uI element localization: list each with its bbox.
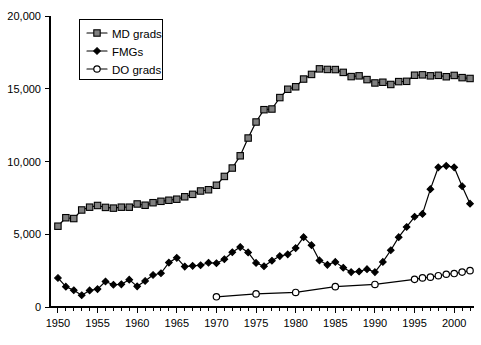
x-tick-label: 1970 xyxy=(204,317,228,329)
legend-item-label: MD grads xyxy=(112,28,162,40)
marker-square xyxy=(213,182,219,188)
marker-diamond xyxy=(459,183,466,190)
x-tick-label: 1960 xyxy=(125,317,149,329)
x-tick-label: 1985 xyxy=(323,317,347,329)
marker-square xyxy=(316,66,322,72)
marker-diamond xyxy=(364,266,371,273)
marker-square xyxy=(79,207,85,213)
marker-diamond xyxy=(348,269,355,276)
marker-diamond xyxy=(356,268,363,275)
marker-circle xyxy=(459,269,465,275)
marker-diamond xyxy=(467,200,474,207)
marker-diamond xyxy=(197,262,204,269)
marker-square xyxy=(245,135,251,141)
x-tick-label: 1995 xyxy=(402,317,426,329)
marker-square xyxy=(118,204,124,210)
marker-square xyxy=(253,119,259,125)
marker-square xyxy=(332,66,338,72)
marker-diamond xyxy=(118,281,125,288)
marker-square xyxy=(292,84,298,90)
x-tick-label: 1975 xyxy=(244,317,268,329)
marker-diamond xyxy=(189,263,196,270)
marker-square xyxy=(197,188,203,194)
marker-diamond xyxy=(78,292,85,299)
marker-square xyxy=(94,30,100,36)
marker-square xyxy=(285,86,291,92)
marker-diamond xyxy=(70,287,77,294)
marker-square xyxy=(142,202,148,208)
y-tick-label: 0 xyxy=(35,301,41,313)
marker-square xyxy=(435,72,441,78)
marker-diamond xyxy=(427,186,434,193)
marker-circle xyxy=(427,274,433,280)
marker-circle xyxy=(411,276,417,282)
y-tick-label: 5,000 xyxy=(13,228,41,240)
marker-square xyxy=(277,94,283,100)
marker-square xyxy=(189,191,195,197)
x-tick-label: 1965 xyxy=(165,317,189,329)
marker-square xyxy=(427,73,433,79)
marker-diamond xyxy=(451,164,458,171)
marker-square xyxy=(396,78,402,84)
y-tick-label: 10,000 xyxy=(7,156,41,168)
marker-diamond xyxy=(277,253,284,260)
marker-square xyxy=(55,223,61,229)
marker-square xyxy=(63,215,69,221)
marker-square xyxy=(300,76,306,82)
marker-square xyxy=(356,73,362,79)
marker-square xyxy=(308,71,314,77)
marker-diamond xyxy=(110,281,117,288)
marker-circle xyxy=(253,291,259,297)
legend-item-label: FMGs xyxy=(112,46,144,58)
marker-square xyxy=(348,73,354,79)
marker-square xyxy=(174,196,180,202)
marker-square xyxy=(403,78,409,84)
marker-square xyxy=(166,197,172,203)
x-tick-label: 1950 xyxy=(46,317,70,329)
marker-square xyxy=(134,201,140,207)
marker-square xyxy=(158,198,164,204)
marker-circle xyxy=(419,275,425,281)
x-axis-ticks: 1950195519601965197019751980198519901995… xyxy=(46,307,470,329)
marker-circle xyxy=(467,267,473,273)
marker-square xyxy=(380,79,386,85)
marker-circle xyxy=(372,281,378,287)
marker-square xyxy=(229,165,235,171)
marker-square xyxy=(221,173,227,179)
marker-square xyxy=(467,75,473,81)
line-chart: 05,00010,00015,00020,0001950195519601965… xyxy=(0,0,481,345)
x-tick-label: 1980 xyxy=(283,317,307,329)
marker-diamond xyxy=(237,244,244,251)
marker-square xyxy=(372,80,378,86)
marker-diamond xyxy=(443,163,450,170)
marker-square xyxy=(411,72,417,78)
marker-diamond xyxy=(316,257,323,264)
marker-square xyxy=(102,204,108,210)
marker-square xyxy=(388,81,394,87)
marker-square xyxy=(419,72,425,78)
marker-diamond xyxy=(324,262,331,269)
marker-diamond xyxy=(387,247,394,254)
y-tick-label: 20,000 xyxy=(7,10,41,22)
marker-square xyxy=(340,69,346,75)
marker-circle xyxy=(94,66,100,72)
marker-square xyxy=(364,76,370,82)
marker-diamond xyxy=(435,164,442,171)
marker-square xyxy=(126,204,132,210)
legend-item-label: DO grads xyxy=(112,64,161,76)
marker-square xyxy=(94,202,100,208)
marker-square xyxy=(443,74,449,80)
marker-square xyxy=(71,215,77,221)
series-fmgs xyxy=(55,163,474,299)
marker-diamond xyxy=(205,259,212,266)
marker-square xyxy=(269,106,275,112)
marker-circle xyxy=(443,271,449,277)
marker-circle xyxy=(332,283,338,289)
marker-diamond xyxy=(86,287,93,294)
chart-container: 05,00010,00015,00020,0001950195519601965… xyxy=(0,0,481,345)
marker-square xyxy=(324,66,330,72)
marker-square xyxy=(261,106,267,112)
series-do-grads xyxy=(213,267,473,300)
series-line xyxy=(58,69,470,226)
y-axis-ticks: 05,00010,00015,00020,000 xyxy=(7,10,50,313)
